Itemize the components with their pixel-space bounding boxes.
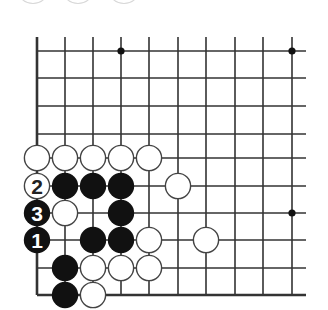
white-stone-disc [80, 255, 105, 280]
black-stone-disc [108, 227, 134, 253]
black-stone [108, 200, 134, 226]
move-number-label: 3 [31, 202, 43, 225]
white-stone-disc [136, 255, 161, 280]
white-stone [80, 255, 105, 280]
black-stone-disc [52, 255, 78, 281]
black-stone-disc [52, 173, 78, 199]
star-point [117, 47, 124, 54]
white-stone-disc [165, 173, 190, 198]
star-point [288, 209, 295, 216]
white-stone [108, 255, 133, 280]
black-stone: 3 [24, 200, 50, 226]
white-stone-disc [80, 145, 105, 170]
white-stone-disc [136, 145, 161, 170]
white-stone-disc [108, 255, 133, 280]
white-stone-disc [52, 145, 77, 170]
white-stone-disc [24, 145, 49, 170]
white-stone [165, 173, 190, 198]
white-stone [193, 227, 218, 252]
black-stone-disc [108, 173, 134, 199]
white-stone [52, 200, 77, 225]
black-stone [52, 173, 78, 199]
white-stone-disc [108, 145, 133, 170]
star-point [288, 47, 295, 54]
white-stone [136, 255, 161, 280]
black-stone [52, 255, 78, 281]
black-stone: 1 [24, 227, 50, 253]
white-stone-disc [136, 227, 161, 252]
move-number-label: 1 [31, 229, 43, 252]
white-stone-disc [80, 282, 105, 307]
grid-lines [37, 37, 306, 295]
black-stone [52, 282, 78, 308]
white-stone-disc [193, 227, 218, 252]
white-stone [24, 145, 49, 170]
move-number-label: 2 [31, 175, 43, 198]
go-board: 231 [0, 0, 328, 310]
white-stone-disc [52, 200, 77, 225]
white-stone [52, 145, 77, 170]
black-stone-disc [80, 227, 106, 253]
black-stone-disc [108, 200, 134, 226]
white-stone [136, 145, 161, 170]
white-stone: 2 [24, 173, 49, 198]
white-stone [136, 227, 161, 252]
white-stone [108, 145, 133, 170]
black-stone [108, 227, 134, 253]
black-stone [80, 173, 106, 199]
white-stone [80, 282, 105, 307]
black-stone [80, 227, 106, 253]
white-stone [80, 145, 105, 170]
black-stone-disc [80, 173, 106, 199]
black-stone-disc [52, 282, 78, 308]
black-stone [108, 173, 134, 199]
